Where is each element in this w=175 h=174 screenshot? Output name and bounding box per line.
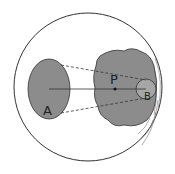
label-a: A <box>43 103 52 118</box>
label-b: B <box>144 91 151 102</box>
diagram-canvas: A P B <box>0 0 175 174</box>
point-p <box>114 88 117 91</box>
label-p: P <box>110 72 118 87</box>
